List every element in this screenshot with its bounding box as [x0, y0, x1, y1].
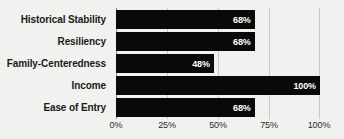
category-label: Ease of Entry [0, 98, 112, 117]
category-label: Historical Stability [0, 10, 112, 29]
bar-row: 68% [116, 98, 320, 117]
bar-row: 68% [116, 32, 320, 51]
plot-area: 68% 68% 48% 100% 68% [116, 8, 320, 119]
bars-container: 68% 68% 48% 100% 68% [116, 10, 320, 117]
bar-value-label: 68% [233, 37, 255, 47]
bar-value-label: 68% [233, 15, 255, 25]
value-axis: 0% 25% 50% 75% 100% [116, 120, 320, 134]
bar-ease-of-entry[interactable]: 68% [116, 98, 255, 117]
x-tick-label-50: 50% [209, 120, 227, 130]
x-tick-label-75: 75% [260, 120, 278, 130]
bar-row: 68% [116, 10, 320, 29]
x-tick-label-0: 0% [110, 120, 123, 130]
category-axis: Historical Stability Resiliency Family-C… [0, 10, 112, 117]
bar-row: 48% [116, 54, 320, 73]
category-label: Family-Centeredness [0, 54, 112, 73]
x-tick-label-25: 25% [158, 120, 176, 130]
bar-resiliency[interactable]: 68% [116, 32, 255, 51]
bar-value-label: 48% [192, 59, 214, 69]
bar-value-label: 68% [233, 103, 255, 113]
horizontal-bar-chart: Historical Stability Resiliency Family-C… [0, 0, 344, 139]
bar-historical-stability[interactable]: 68% [116, 10, 255, 29]
category-label: Resiliency [0, 32, 112, 51]
bar-row: 100% [116, 76, 320, 95]
x-tick-label-100: 100% [308, 120, 331, 130]
bar-income[interactable]: 100% [116, 76, 320, 95]
bar-value-label: 100% [293, 81, 320, 91]
bar-family-centeredness[interactable]: 48% [116, 54, 214, 73]
category-label: Income [0, 76, 112, 95]
